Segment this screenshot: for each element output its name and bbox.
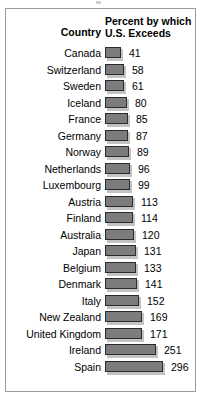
row-bar — [105, 163, 130, 174]
column-header-measure-line2: U.S. Exceeds — [105, 27, 191, 39]
chart-header: Country Percent by which U.S. Exceeds — [6, 13, 197, 43]
row-value-label: 41 — [129, 47, 141, 59]
row-bar-zone — [105, 163, 134, 175]
row-value-label: 96 — [138, 163, 150, 175]
row-country-label: Netherlands — [44, 163, 101, 175]
row-value-label: 171 — [150, 328, 168, 340]
chart-row: Spain296 — [6, 359, 197, 376]
row-bar-zone — [105, 146, 133, 158]
row-bar — [105, 80, 124, 91]
chart-row: Austria113 — [6, 194, 197, 211]
row-value-label: 296 — [171, 361, 189, 373]
column-header-country: Country — [61, 27, 101, 38]
row-bar-zone — [105, 278, 141, 290]
chart-row: Finland114 — [6, 210, 197, 227]
row-bar — [105, 196, 133, 207]
row-bar-zone — [105, 179, 134, 191]
row-bar-zone — [105, 97, 131, 109]
row-country-label: Iceland — [67, 97, 101, 109]
row-country-label: Australia — [60, 229, 101, 241]
row-value-label: 85 — [136, 113, 148, 125]
row-bar-zone — [105, 80, 128, 92]
row-bar — [105, 229, 134, 240]
chart-row: Germany87 — [6, 128, 197, 145]
row-bar — [105, 278, 137, 289]
chart-row: Switzerland58 — [6, 62, 197, 79]
row-bar-zone — [105, 245, 140, 257]
row-bar — [105, 245, 136, 256]
row-bar-zone — [105, 113, 132, 125]
row-bar-zone — [105, 64, 128, 76]
row-bar-zone — [105, 361, 167, 373]
scan-artifact — [96, 1, 101, 4]
row-bar — [105, 344, 156, 355]
row-country-label: Belgium — [63, 262, 101, 274]
row-bar — [105, 262, 136, 273]
row-bar-zone — [105, 196, 137, 208]
row-bar — [105, 328, 142, 339]
row-bar-zone — [105, 130, 132, 142]
chart-row: Denmark141 — [6, 276, 197, 293]
row-country-label: Finland — [67, 212, 101, 224]
row-country-label: Switzerland — [47, 64, 101, 76]
row-value-label: 87 — [136, 130, 148, 142]
row-country-label: Japan — [72, 245, 101, 257]
chart-row: Canada41 — [6, 45, 197, 62]
chart-row: Japan131 — [6, 243, 197, 260]
row-country-label: Italy — [82, 295, 101, 307]
chart-row: Norway89 — [6, 144, 197, 161]
chart-row: Italy152 — [6, 293, 197, 310]
row-country-label: Luxembourg — [43, 179, 101, 191]
row-bar — [105, 295, 139, 306]
row-country-label: Germany — [58, 130, 101, 142]
row-value-label: 133 — [144, 262, 162, 274]
row-bar-zone — [105, 47, 125, 59]
row-value-label: 99 — [138, 179, 150, 191]
row-country-label: France — [68, 113, 101, 125]
column-header-measure: Percent by which U.S. Exceeds — [105, 15, 191, 39]
row-value-label: 89 — [137, 146, 149, 158]
chart-row: Australia120 — [6, 227, 197, 244]
row-bar-zone — [105, 328, 146, 340]
chart-row: France85 — [6, 111, 197, 128]
row-bar — [105, 64, 124, 75]
row-country-label: Sweden — [63, 80, 101, 92]
row-bar — [105, 146, 129, 157]
chart-row: New Zealand169 — [6, 309, 197, 326]
row-value-label: 152 — [147, 295, 165, 307]
column-header-measure-line1: Percent by which — [105, 15, 191, 27]
row-bar — [105, 47, 121, 58]
row-country-label: New Zealand — [39, 311, 101, 323]
row-bar-zone — [105, 311, 146, 323]
row-value-label: 169 — [150, 311, 168, 323]
chart-rows: Canada41Switzerland58Sweden61Iceland80Fr… — [6, 45, 197, 375]
row-value-label: 120 — [142, 229, 160, 241]
chart-row: Ireland251 — [6, 342, 197, 359]
row-value-label: 61 — [132, 80, 144, 92]
row-country-label: Canada — [64, 47, 101, 59]
chart-row: United Kingdom171 — [6, 326, 197, 343]
chart-row: Iceland80 — [6, 95, 197, 112]
row-bar-zone — [105, 229, 138, 241]
chart-row: Luxembourg99 — [6, 177, 197, 194]
row-bar — [105, 212, 133, 223]
row-country-label: Spain — [74, 361, 101, 373]
row-value-label: 58 — [132, 64, 144, 76]
row-value-label: 251 — [164, 344, 182, 356]
row-bar — [105, 113, 128, 124]
row-bar — [105, 97, 127, 108]
row-country-label: Ireland — [69, 344, 101, 356]
row-country-label: United Kingdom — [26, 328, 101, 340]
row-bar-zone — [105, 295, 143, 307]
row-bar — [105, 130, 128, 141]
row-bar — [105, 361, 163, 372]
row-country-label: Norway — [65, 146, 101, 158]
row-bar-zone — [105, 344, 160, 356]
row-bar — [105, 179, 130, 190]
bar-chart-figure: Country Percent by which U.S. Exceeds Ca… — [5, 8, 196, 392]
row-value-label: 113 — [141, 196, 158, 208]
row-value-label: 80 — [135, 97, 147, 109]
chart-row: Netherlands96 — [6, 161, 197, 178]
row-country-label: Austria — [68, 196, 101, 208]
row-value-label: 131 — [144, 245, 162, 257]
